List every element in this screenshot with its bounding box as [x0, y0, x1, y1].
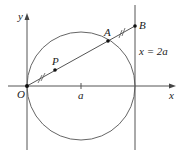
x-axis-label: x [168, 89, 174, 101]
point-B-label: B [139, 19, 146, 31]
point-O [25, 84, 29, 88]
x-axis [8, 84, 176, 89]
point-P [53, 68, 57, 72]
y-axis-label: y [17, 10, 23, 22]
line-label: x = 2a [138, 45, 168, 57]
diagram: y x O a P A B x = 2a [0, 0, 190, 161]
point-A-label: A [103, 26, 111, 38]
point-B [133, 24, 137, 28]
point-P-label: P [51, 55, 59, 67]
point-A [106, 39, 110, 43]
tick-label-a: a [78, 89, 84, 101]
origin-label: O [17, 88, 25, 100]
